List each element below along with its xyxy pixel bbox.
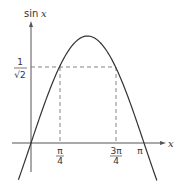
x-tick-pi4-numerator: π xyxy=(57,146,63,156)
x-tick-3pi4-numerator: 3π xyxy=(110,146,122,156)
x-tick-3pi4-denominator: 4 xyxy=(113,156,119,166)
sine-curve xyxy=(18,36,156,181)
x-tick-pi: π xyxy=(137,146,143,156)
y-axis-arrow-icon xyxy=(29,21,33,27)
sine-graph: sin x 1 √2 π 4 3π 4 π x xyxy=(0,0,181,188)
x-axis-label: x xyxy=(168,138,174,149)
x-axis-arrow-icon xyxy=(160,141,166,145)
x-tick-pi4-denominator: 4 xyxy=(57,156,63,166)
y-tick-denominator: √2 xyxy=(14,70,25,80)
y-tick-numerator: 1 xyxy=(17,57,23,67)
y-axis-label-sin: sin xyxy=(24,8,38,19)
y-axis-label-x: x xyxy=(41,8,47,19)
